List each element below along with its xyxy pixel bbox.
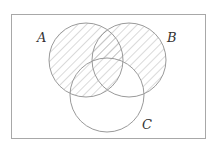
label-b: B <box>166 30 177 45</box>
label-c: C <box>142 117 152 132</box>
label-a: A <box>36 30 46 45</box>
shaded-region-b-minus-c <box>0 0 217 143</box>
venn-diagram: A B C <box>0 0 217 143</box>
